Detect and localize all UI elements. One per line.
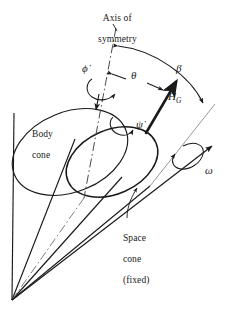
axis-of-symmetry-label: Axis of symmetry (82, 2, 148, 45)
body-cone-line2: cone (32, 150, 50, 160)
space-cone-label: Space cone (fixed) (118, 222, 174, 286)
phi-dot-label: ϕ̇ (82, 62, 88, 74)
space-cone-leader (127, 188, 137, 218)
space-cone-line2: cone (123, 254, 141, 264)
body-cone-label: Body cone (27, 118, 75, 161)
beta-label: β (176, 62, 182, 74)
angular-momentum-label: HG (168, 90, 182, 106)
angular-momentum-subscript: G (176, 96, 182, 105)
axis-of-symmetry-line1: Axis of (103, 13, 132, 23)
theta-label: θ (131, 69, 137, 81)
omega-label: ω (205, 164, 213, 176)
phi-dot-rotation-arrow (87, 79, 115, 100)
theta-double-arrow (112, 74, 163, 90)
angular-momentum-symbol: H (168, 90, 176, 102)
space-cone-line1: Space (123, 233, 146, 243)
space-cone-line3: (fixed) (123, 275, 150, 285)
psi-dot-label: ψ̇ (136, 118, 143, 130)
psi-dot-rotation-arrow (110, 117, 133, 135)
symmetry-axis-arrowhead (96, 94, 99, 110)
body-cone-line1: Body (32, 129, 53, 139)
axis-of-symmetry-line2: symmetry (98, 34, 137, 44)
